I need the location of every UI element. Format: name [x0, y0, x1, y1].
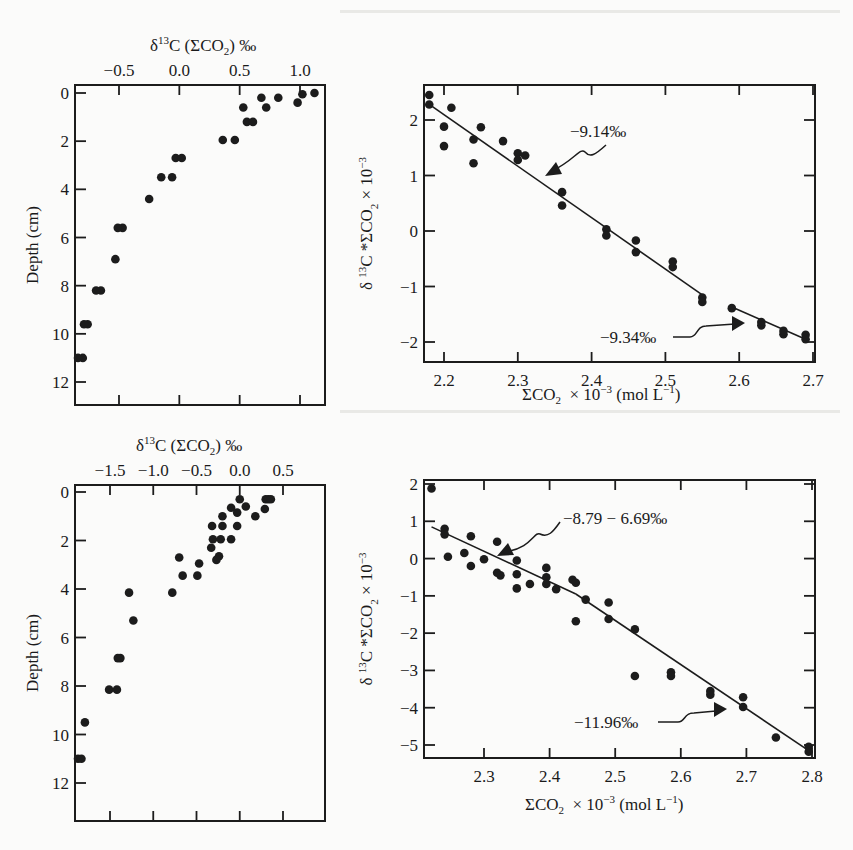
data-point	[526, 580, 535, 589]
data-point	[604, 598, 613, 607]
data-point	[444, 552, 453, 561]
data-point	[261, 505, 270, 514]
data-point	[631, 625, 640, 634]
x-tick-label: 0.0	[169, 61, 190, 80]
y-tick-label: 1	[410, 512, 419, 531]
data-point	[757, 321, 766, 330]
y-tick-label: 10	[52, 726, 69, 745]
y-tick-label: 10	[52, 325, 69, 344]
y-tick-label: 0	[61, 84, 70, 103]
data-point	[293, 98, 302, 107]
x-tick-label: 2.7	[736, 767, 758, 786]
data-point	[235, 495, 244, 504]
tl-title: δ13C (ΣCO2) ‰	[150, 34, 256, 57]
data-point	[80, 320, 89, 329]
data-point	[231, 136, 240, 145]
data-point	[92, 286, 101, 295]
data-point	[310, 89, 319, 98]
data-point	[440, 142, 449, 151]
tr-arrow-2-head	[732, 316, 745, 331]
y-axis-label-part: × 10	[357, 564, 376, 599]
data-point	[233, 508, 242, 517]
data-point	[145, 195, 154, 204]
data-point	[262, 103, 271, 112]
data-point	[227, 535, 236, 544]
data-point	[514, 156, 523, 165]
x-tick-label: −1.5	[95, 461, 126, 480]
y-tick-label: 8	[61, 677, 70, 696]
y-tick-label: 1	[410, 167, 419, 186]
data-point	[779, 327, 788, 336]
y-tick-label: 2	[61, 132, 70, 151]
y-axis-label: Depth (cm)	[23, 614, 42, 692]
tr-xlabel: ΣCO2 × 10−3 (mol L−1)	[522, 383, 680, 406]
data-point	[440, 122, 449, 131]
data-point	[274, 94, 283, 103]
x-tick-label: 0.0	[229, 461, 250, 480]
data-point	[469, 159, 478, 168]
data-point	[74, 354, 83, 363]
data-point	[105, 685, 114, 694]
annotation-label-1: −9.14‰	[570, 122, 626, 141]
data-point	[249, 118, 258, 127]
y-axis-label: δ 13C *ΣCO2 × 10−3	[356, 156, 380, 290]
data-point	[558, 188, 567, 197]
br-xlabel: ΣCO2 × 10−3 (mol L−1)	[525, 793, 683, 816]
data-point	[480, 555, 489, 564]
data-point	[175, 553, 184, 562]
x-tick-label: 0.5	[272, 461, 293, 480]
data-point	[667, 672, 676, 681]
y-tick-label: 2	[61, 532, 70, 551]
data-point	[440, 530, 449, 539]
y-tick-label: −5	[400, 736, 418, 755]
data-point	[477, 123, 486, 132]
figure-canvas: −0.50.00.51.0024681012Depth (cm)2.22.32.…	[0, 0, 853, 850]
x-tick-label: −0.5	[104, 61, 135, 80]
x-tick-label: 1.0	[289, 61, 310, 80]
y-axis-label-part: 13	[356, 662, 368, 674]
x-tick-label: 2.2	[433, 371, 454, 390]
br-arrow-2-line	[658, 711, 716, 722]
data-point	[801, 335, 810, 344]
y-axis-label: Depth (cm)	[23, 206, 42, 284]
data-point	[604, 615, 613, 624]
data-point	[212, 556, 221, 565]
tr-arrow-2-line	[673, 324, 735, 337]
data-point	[772, 733, 781, 742]
data-point	[113, 224, 122, 233]
y-axis-label-part: −3	[356, 552, 368, 564]
y-axis-label-part: 13	[356, 266, 368, 278]
data-point	[113, 654, 122, 663]
data-point	[233, 522, 242, 531]
y-tick-label: −2	[400, 624, 418, 643]
data-point	[168, 173, 177, 182]
data-point	[125, 588, 134, 597]
x-tick-label: 2.7	[802, 371, 824, 390]
y-axis-label-part: C *ΣCO	[357, 605, 376, 663]
data-point	[739, 693, 748, 702]
data-point	[804, 747, 813, 756]
data-point	[298, 90, 307, 99]
data-point	[513, 556, 522, 565]
y-tick-label: 8	[61, 277, 70, 296]
data-point	[239, 103, 248, 112]
data-point	[425, 91, 434, 100]
y-tick-label: −3	[400, 661, 418, 680]
data-point	[218, 136, 227, 145]
data-point	[572, 617, 581, 626]
data-point	[218, 512, 227, 521]
data-point	[631, 672, 640, 681]
annotation-label-4: −11.96‰	[574, 713, 638, 732]
data-point	[447, 103, 456, 112]
data-point	[632, 248, 641, 257]
data-point	[602, 231, 611, 240]
data-point	[739, 703, 748, 712]
y-tick-label: −1	[400, 278, 418, 297]
regression-line	[432, 527, 576, 594]
y-tick-label: 0	[410, 222, 419, 241]
x-tick-label: 2.3	[473, 767, 494, 786]
data-point	[218, 522, 227, 531]
data-point	[193, 571, 202, 580]
data-point	[177, 154, 186, 163]
y-tick-label: −4	[400, 699, 419, 718]
